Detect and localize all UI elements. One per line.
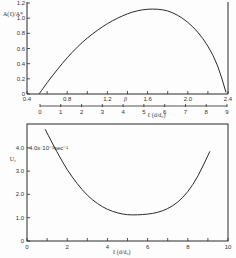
- bottom-chart: 01.02.03.04.00246810ℓ (d/d₀)4.0x·10⁻³sec…: [10, 124, 232, 256]
- y-tick-label: 1.2: [17, 0, 26, 6]
- secondary-x-tick-label: 5: [142, 109, 146, 115]
- y-unit-annotation: 4.0x·10⁻³sec⁻¹: [29, 145, 68, 151]
- x-tick-label: 4: [106, 244, 110, 250]
- x-tick-label: 2.0: [184, 96, 193, 102]
- y-tick-label: 0.2: [17, 76, 26, 82]
- series-line: [39, 9, 226, 94]
- x-tick-label: 0.8: [63, 96, 72, 102]
- x-axis-label: ℓ (d/d₀): [112, 249, 130, 256]
- chart-figure: 00.20.40.60.81.01.20.40.81.21.62.02.4βA(…: [0, 0, 236, 258]
- x-tick-label: 1.2: [103, 96, 112, 102]
- y-axis-label: A(ℓ)/A*: [3, 11, 23, 18]
- y-tick-label: 4.0: [16, 145, 25, 151]
- y-tick-label: 3.0: [16, 168, 25, 174]
- secondary-x-tick-label: 2: [80, 109, 84, 115]
- secondary-x-tick-label: 1: [59, 109, 63, 115]
- secondary-x-tick-label: 8: [205, 109, 209, 115]
- x-tick-label: 2: [66, 244, 70, 250]
- series-line: [45, 129, 210, 215]
- top-chart: 00.20.40.60.81.01.20.40.81.21.62.02.4βA(…: [3, 0, 233, 119]
- secondary-x-tick-label: 9: [225, 109, 229, 115]
- y-tick-label: 0.8: [17, 30, 26, 36]
- secondary-x-tick-label: 3: [101, 109, 105, 115]
- y-tick-label: 0.4: [17, 61, 26, 67]
- y-tick-label: 0.6: [17, 46, 26, 52]
- y-tick-label: 2.0: [16, 191, 25, 197]
- x-tick-label: 2.4: [224, 96, 233, 102]
- x-tick-label: 0.4: [23, 96, 32, 102]
- x-axis-label: β: [123, 96, 127, 102]
- secondary-x-tick-label: 7: [184, 109, 188, 115]
- secondary-x-tick-label: 0: [38, 109, 42, 115]
- x-tick-label: 8: [186, 244, 190, 250]
- secondary-x-tick-label: 4: [121, 109, 125, 115]
- x-tick-label: 6: [146, 244, 150, 250]
- y-tick-label: 1.0: [16, 215, 25, 221]
- plot-frame: [27, 124, 228, 241]
- y-axis-label: U₂: [10, 156, 16, 162]
- x-tick-label: 1.6: [143, 96, 152, 102]
- x-tick-label: 10: [225, 244, 232, 250]
- secondary-x-axis-label: ℓ (d/d₀): [147, 112, 165, 119]
- x-tick-label: 0: [25, 244, 29, 250]
- y-tick-label: 0: [21, 238, 25, 244]
